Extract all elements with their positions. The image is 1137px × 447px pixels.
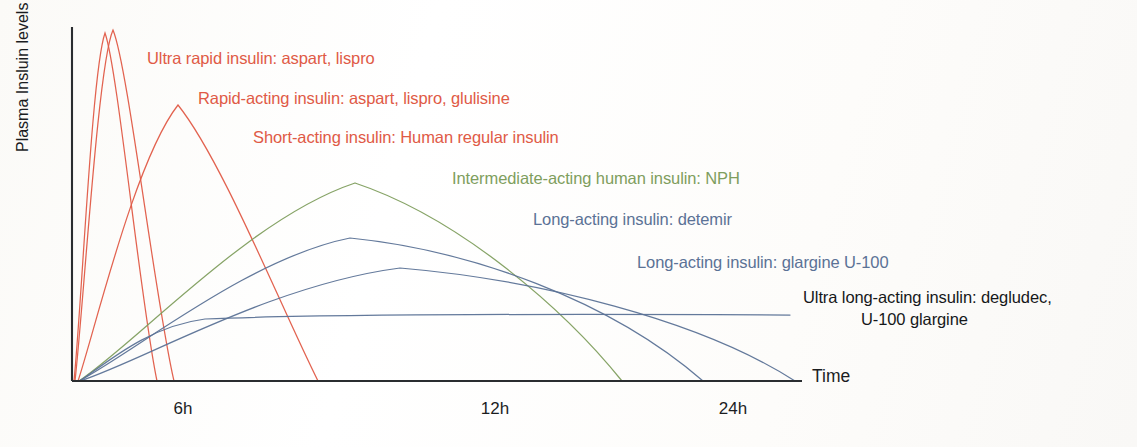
x-axis-label: Time [812, 366, 850, 387]
label-long-acting-detemir: Long-acting insulin: detemir [533, 209, 732, 230]
label-u100-glargine: U-100 glargine [861, 309, 968, 330]
curve-series-4 [79, 238, 703, 381]
label-long-acting-glargine-u100: Long-acting insulin: glargine U-100 [637, 252, 889, 273]
curve-series-6 [80, 314, 790, 381]
x-tick-label-6h: 6h [143, 399, 223, 419]
label-ultra-long-acting-degludec: Ultra long-acting insulin: degludec, [803, 287, 1052, 308]
label-ultra-rapid-insulin: Ultra rapid insulin: aspart, lispro [147, 48, 375, 69]
label-rapid-acting-insulin: Rapid-acting insulin: aspart, lispro, gl… [198, 88, 510, 109]
x-tick-label-24h: 24h [693, 399, 773, 419]
insulin-pharmacokinetics-figure: Plasma Insluin levels Time 6h12h24h Ultr… [0, 0, 1137, 447]
label-intermediate-acting-nph: Intermediate-acting human insulin: NPH [452, 168, 740, 189]
x-tick-label-12h: 12h [455, 399, 535, 419]
axes-group [72, 27, 802, 381]
curve-series-1 [75, 30, 174, 381]
curve-series-5 [80, 268, 795, 381]
y-axis-label: Plasma Insluin levels [14, 0, 32, 152]
curve-group [74, 30, 795, 381]
label-short-acting-insulin: Short-acting insulin: Human regular insu… [253, 127, 559, 148]
